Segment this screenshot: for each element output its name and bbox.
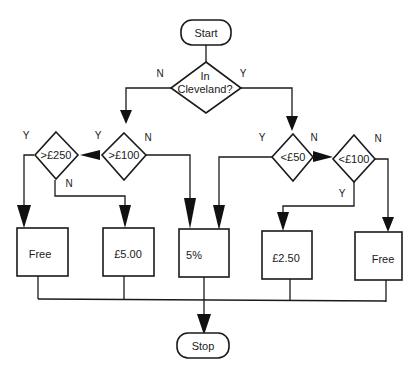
decision-label-line1: In (200, 70, 209, 82)
decision-label: <£100 (339, 153, 370, 165)
arrow-to-lt50 (286, 116, 298, 131)
outcome-five-percent: 5% (179, 229, 229, 277)
outcome-label: Free (29, 248, 52, 260)
outcome-label: £5.00 (114, 248, 142, 260)
branch-label-lt50-yes: Y (259, 132, 266, 143)
outcome-five-pounds: £5.00 (103, 228, 154, 276)
decision-label-line2: Cleveland? (177, 83, 232, 95)
connector-cleveland-no (126, 88, 171, 115)
decision-lt50: <£50 (272, 134, 313, 181)
flowchart-canvas: Start Stop In Cleveland? >£100 >£250 <£5… (0, 0, 418, 373)
decision-gt250: >£250 (35, 132, 78, 179)
branch-label-gt250-no: N (65, 178, 72, 189)
arrow-to-gt250 (80, 150, 100, 160)
connector-cleveland-yes (241, 88, 292, 122)
outcome-free-left: Free (17, 228, 68, 276)
branch-label-lt50-no: N (310, 132, 317, 143)
arrow-to-gt100 (120, 110, 132, 124)
decision-lt100: <£100 (333, 135, 375, 182)
branch-label-gt100-no: N (144, 132, 151, 143)
branch-label-lt100-no: N (374, 133, 381, 144)
arrow-to-stop (197, 314, 211, 335)
branch-label-cleveland-yes: Y (240, 68, 247, 79)
outcome-label: 5% (186, 249, 202, 261)
outcome-label: £2.50 (272, 252, 300, 264)
arrow-to-lt100 (313, 151, 333, 162)
arrow-to-5pct-y (213, 205, 225, 230)
start-label: Start (194, 27, 217, 39)
branch-label-lt100-yes: Y (339, 188, 346, 199)
arrow-to-5pct-n (184, 198, 196, 229)
stop-terminal: Stop (177, 333, 229, 358)
stop-label: Stop (192, 340, 215, 352)
decision-gt100: >£100 (102, 133, 146, 180)
connector-gt100-5pct (146, 155, 190, 198)
start-terminal: Start (181, 20, 231, 45)
decision-label: >£250 (41, 149, 72, 161)
decision-label: <£50 (281, 151, 306, 163)
connector-gt250-free (24, 155, 34, 208)
arrow-to-5pounds (119, 205, 131, 228)
connector-lt50-5pct (219, 157, 272, 205)
branch-label-cleveland-no: N (156, 68, 163, 79)
branch-labels: N (156, 68, 163, 79)
outcome-free-right: Free (355, 232, 402, 280)
outcome-two-fifty: £2.50 (262, 231, 312, 279)
outcome-label: Free (372, 253, 395, 265)
connector-lt100-free (375, 159, 388, 217)
branch-label-gt250-yes: Y (23, 130, 30, 141)
arrow-to-free-right (382, 217, 394, 232)
connector-bus (38, 299, 386, 301)
arrow-to-free-left (17, 205, 31, 228)
branch-label-gt100-yes: Y (95, 130, 102, 141)
arrow-to-250 (277, 212, 289, 231)
decision-label: >£100 (109, 149, 140, 161)
decision-in-cleveland: In Cleveland? (171, 62, 241, 113)
